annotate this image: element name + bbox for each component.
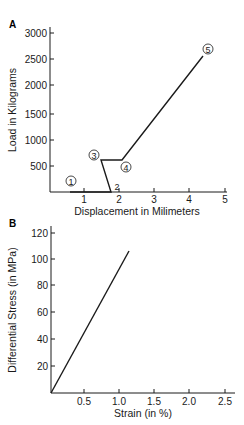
x-ticks-b: 0.5 1.0 1.5 2.0 2.5 xyxy=(77,389,232,407)
x-tick-label: 2.5 xyxy=(218,396,232,407)
x-ticks-a: 1 2 3 4 5 xyxy=(81,188,228,205)
y-tick-label: 120 xyxy=(31,228,48,239)
y-tick-label: 80 xyxy=(37,280,49,291)
load-displacement-line xyxy=(70,56,203,192)
y-tick-label: 3000 xyxy=(25,28,48,39)
chart-b: B 20 40 60 80 100 120 0.5 1.0 1.5 2 xyxy=(6,218,235,419)
x-tick-label: 2 xyxy=(116,194,122,205)
chart-a: A 500 1000 1500 2000 2500 3000 1 xyxy=(6,19,228,217)
x-tick-label: 1 xyxy=(81,194,87,205)
panel-label-b: B xyxy=(9,218,16,229)
stress-strain-line xyxy=(51,251,129,393)
x-tick-label: 3 xyxy=(151,194,157,205)
figure: A 500 1000 1500 2000 2500 3000 1 xyxy=(0,0,244,425)
y-tick-label: 2000 xyxy=(25,80,48,91)
y-tick-label: 2500 xyxy=(25,54,48,65)
y-tick-label: 1500 xyxy=(25,109,48,120)
point-label-2: 2 xyxy=(114,182,119,192)
y-axis-title-b: Differential Stress (in MPa) xyxy=(6,247,18,372)
x-axis-title-b: Strain (in %) xyxy=(114,407,172,419)
y-axis-title-a: Load in Kilograms xyxy=(6,68,18,152)
y-tick-label: 20 xyxy=(37,361,49,372)
y-tick-label: 40 xyxy=(37,334,49,345)
point-label-1: 1 xyxy=(68,177,73,187)
panel-label-a: A xyxy=(9,19,16,30)
point-label-5: 5 xyxy=(205,45,210,55)
y-tick-label: 60 xyxy=(37,307,49,318)
x-tick-label: 1.5 xyxy=(147,396,161,407)
point-label-4: 4 xyxy=(123,163,128,173)
y-tick-label: 100 xyxy=(31,254,48,265)
x-tick-label: 1.0 xyxy=(112,396,126,407)
x-axis-title-a: Displacement in Milimeters xyxy=(74,205,199,217)
x-tick-label: 4 xyxy=(186,194,192,205)
x-tick-label: 0.5 xyxy=(77,396,91,407)
x-tick-label: 5 xyxy=(222,194,228,205)
point-annotations: 1 2 3 4 5 xyxy=(66,44,213,192)
y-tick-label: 500 xyxy=(30,161,47,172)
y-tick-label: 1000 xyxy=(25,135,48,146)
point-label-3: 3 xyxy=(91,151,96,161)
x-tick-label: 2.0 xyxy=(182,396,196,407)
